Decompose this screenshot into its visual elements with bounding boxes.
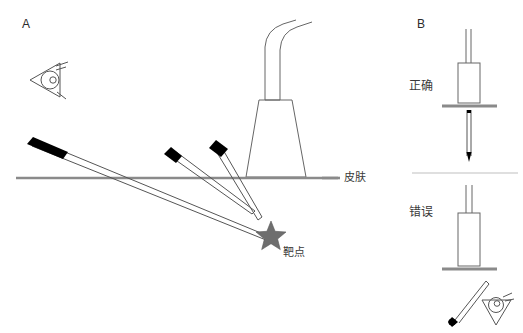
incorrect-case-group — [442, 185, 514, 327]
needle-steep — [209, 140, 262, 220]
diagram-canvas — [0, 0, 523, 333]
eye-icon — [30, 62, 68, 99]
eye-icon-b — [482, 293, 514, 325]
figure-root: A B — [0, 0, 523, 333]
needle-shallow — [27, 137, 268, 240]
incorrect-label: 错误 — [409, 202, 433, 219]
skin-label-a: 皮肤 — [344, 168, 366, 184]
target-label-a: 靶点 — [283, 243, 305, 259]
correct-case-group — [442, 29, 497, 162]
correct-label: 正确 — [409, 76, 433, 93]
star-target-icon — [256, 221, 286, 250]
ultrasound-probe-icon — [246, 20, 312, 177]
